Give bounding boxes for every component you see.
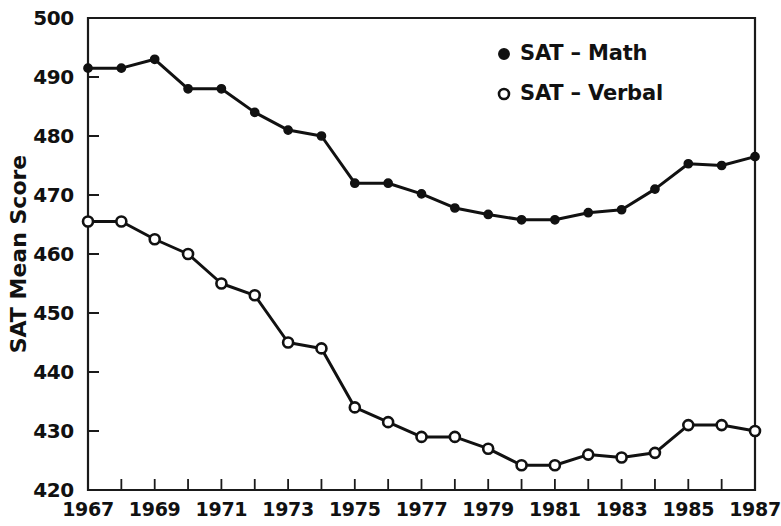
data-point <box>684 160 692 168</box>
y-axis-tick-label: 490 <box>33 65 74 89</box>
data-point <box>550 460 560 470</box>
data-point <box>483 444 493 454</box>
data-point <box>651 185 659 193</box>
y-axis-ticks <box>88 77 99 431</box>
data-point <box>116 217 126 227</box>
data-series-layer <box>83 55 760 470</box>
data-point <box>451 204 459 212</box>
data-point <box>184 85 192 93</box>
data-point <box>584 209 592 217</box>
data-point <box>618 206 626 214</box>
x-axis-ticks <box>121 479 721 490</box>
y-axis-tick-labels: 420430440450460470480490500 <box>33 6 74 502</box>
x-axis-tick-labels: 1967196919711973197519771979198119831985… <box>62 498 781 520</box>
data-point <box>117 64 125 72</box>
chart-legend: SAT – MathSAT – Verbal <box>499 41 663 105</box>
x-axis-tick-label: 1985 <box>662 498 714 520</box>
data-point <box>217 85 225 93</box>
data-point <box>517 216 525 224</box>
legend-marker-filled-circle-icon <box>499 49 509 59</box>
data-point <box>551 216 559 224</box>
x-axis-tick-label: 1987 <box>729 498 781 520</box>
data-point <box>284 126 292 134</box>
y-axis-tick-label: 460 <box>33 242 74 266</box>
x-axis-tick-label: 1969 <box>129 498 181 520</box>
data-point <box>583 450 593 460</box>
data-point <box>250 290 260 300</box>
y-axis-tick-label: 440 <box>33 360 74 384</box>
data-point <box>251 108 259 116</box>
data-point <box>417 190 425 198</box>
legend-label: SAT – Verbal <box>520 81 663 105</box>
data-point <box>183 249 193 259</box>
data-point <box>751 153 759 161</box>
data-point <box>84 64 92 72</box>
data-point <box>517 460 527 470</box>
data-point <box>384 179 392 187</box>
x-axis-tick-label: 1981 <box>529 498 581 520</box>
y-axis-tick-label: 480 <box>33 124 74 148</box>
data-point <box>750 426 760 436</box>
data-point <box>350 402 360 412</box>
legend-label: SAT – Math <box>520 41 647 65</box>
chart-canvas: SAT Mean Score 4204304404504604704804905… <box>0 0 781 526</box>
legend-marker-open-circle-icon <box>499 89 509 99</box>
x-axis-tick-label: 1975 <box>329 498 381 520</box>
y-axis-title: SAT Mean Score <box>6 155 31 354</box>
x-axis-tick-label: 1973 <box>262 498 314 520</box>
data-point <box>317 132 325 140</box>
x-axis-tick-label: 1971 <box>196 498 248 520</box>
x-axis-tick-label: 1979 <box>462 498 514 520</box>
data-point <box>83 217 93 227</box>
x-axis-tick-label: 1967 <box>62 498 114 520</box>
x-axis-tick-label: 1977 <box>396 498 448 520</box>
legend-entry: SAT – Math <box>499 41 647 65</box>
data-point <box>383 417 393 427</box>
data-point <box>316 343 326 353</box>
data-point <box>484 210 492 218</box>
data-point <box>283 338 293 348</box>
data-point <box>717 420 727 430</box>
data-point <box>150 234 160 244</box>
data-point <box>617 453 627 463</box>
data-point <box>151 55 159 63</box>
data-point <box>650 448 660 458</box>
legend-entry: SAT – Verbal <box>499 81 663 105</box>
y-axis-tick-label: 430 <box>33 419 74 443</box>
data-point <box>417 432 427 442</box>
data-point <box>216 279 226 289</box>
series-verbal <box>83 217 760 471</box>
y-axis-tick-label: 450 <box>33 301 74 325</box>
y-axis-tick-label: 470 <box>33 183 74 207</box>
data-point <box>450 432 460 442</box>
data-point <box>718 161 726 169</box>
data-point <box>683 420 693 430</box>
x-axis-tick-label: 1983 <box>596 498 648 520</box>
sat-mean-score-chart: SAT Mean Score 4204304404504604704804905… <box>0 0 781 526</box>
y-axis-tick-label: 500 <box>33 6 74 30</box>
data-point <box>351 179 359 187</box>
